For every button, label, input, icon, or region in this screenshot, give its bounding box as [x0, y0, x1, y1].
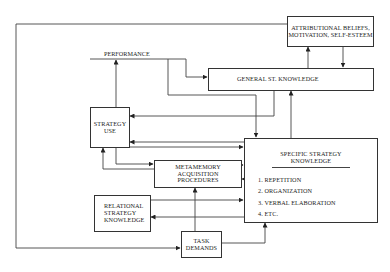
relational-line-3: KNOWLEDGE	[104, 217, 144, 224]
specific-strategy-knowledge-box: SPECIFIC STRATEGY KNOWLEDGE 1. REPETITIO…	[244, 138, 378, 223]
strategy-item-etc: 4. ETC.	[258, 208, 336, 220]
edge-metamemory-to-strategy	[103, 148, 154, 169]
strategy-use-line-2: USE	[94, 128, 126, 135]
strategy-use-box: STRATEGY USE	[90, 107, 130, 148]
strategy-list: 1. REPETITION 2. ORGANIZATION 3. VERBAL …	[258, 174, 336, 220]
specific-knowledge-title-2: KNOWLEDGE	[245, 158, 377, 165]
edge-task-to-specific	[221, 223, 265, 243]
attributional-beliefs-box: ATTRIBUTIONAL BELIEFS, MOTIVATION, SELF-…	[287, 16, 374, 47]
task-demands-box: TASK DEMANDS	[181, 231, 222, 258]
edge-general-to-strategy	[130, 90, 274, 116]
relational-strategy-knowledge-box: RELATIONAL STRATEGY KNOWLEDGE	[94, 195, 151, 232]
performance-label: PERFORMANCE	[104, 50, 150, 57]
attributional-line-2: MOTIVATION, SELF-ESTEEM	[289, 32, 373, 39]
edge-strategy-to-metamemory	[116, 147, 153, 164]
general-st-knowledge-label: GENERAL ST. KNOWLEDGE	[237, 76, 319, 83]
strategy-item-verbal-elaboration: 3. VERBAL ELABORATION	[258, 197, 336, 209]
general-st-knowledge-box: GENERAL ST. KNOWLEDGE	[208, 68, 374, 91]
edge-performance-to-general	[168, 59, 207, 77]
task-demands-line-2: DEMANDS	[186, 245, 217, 252]
metamemory-acquisition-box: METAMEMORY ACQUISITION PROCEDURES	[154, 160, 242, 188]
title-underline	[272, 167, 350, 168]
metamemory-line-3: PROCEDURES	[175, 177, 221, 184]
strategy-item-repetition: 1. REPETITION	[258, 174, 336, 186]
strategy-item-organization: 2. ORGANIZATION	[258, 185, 336, 197]
